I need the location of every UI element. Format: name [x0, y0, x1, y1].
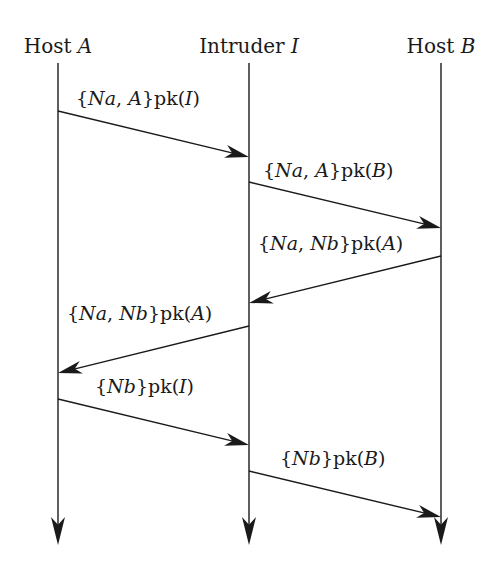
- sequence-diagram: Host AIntruder IHost B {Na, A}pk(I){Na, …: [0, 0, 497, 575]
- message-arrow-5: {Nb}pk(I): [58, 375, 249, 446]
- message-label-2: {Na, A}pk(B): [263, 159, 393, 181]
- message-label-6: {Nb}pk(B): [280, 447, 385, 469]
- message-line: [58, 399, 235, 442]
- message-label-3: {Na, Nb}pk(A): [258, 232, 403, 254]
- message-arrow-3: {Na, Nb}pk(A): [249, 232, 441, 304]
- message-arrow-6: {Nb}pk(B): [249, 447, 441, 518]
- message-line: [72, 326, 249, 370]
- message-line: [263, 256, 441, 300]
- participant-label-b: Host B: [407, 34, 476, 58]
- participants: Host AIntruder IHost B: [24, 34, 476, 58]
- message-label-4: {Na, Nb}pk(A): [67, 302, 212, 324]
- message-line: [249, 182, 427, 225]
- message-arrow-2: {Na, A}pk(B): [249, 159, 441, 229]
- message-arrow-4: {Na, Nb}pk(A): [58, 302, 249, 374]
- message-label-5: {Nb}pk(I): [95, 375, 194, 397]
- message-line: [58, 111, 235, 154]
- message-label-1: {Na, A}pk(I): [76, 87, 200, 109]
- participant-label-i: Intruder I: [199, 34, 300, 58]
- message-line: [249, 471, 427, 514]
- participant-label-a: Host A: [24, 34, 93, 58]
- message-arrow-1: {Na, A}pk(I): [58, 87, 249, 158]
